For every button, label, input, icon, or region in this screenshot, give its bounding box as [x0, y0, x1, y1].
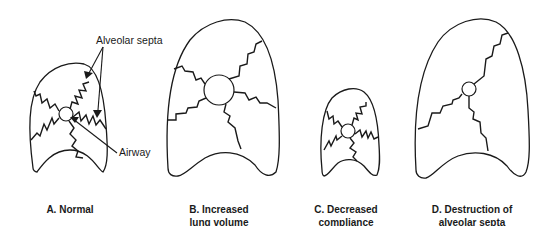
caption-b-line2: lung volume: [182, 216, 256, 226]
septum-c-upper-right: [352, 102, 366, 125]
septum-b-right: [234, 92, 276, 108]
septum-d-upper-right: [474, 33, 508, 84]
septum-c-upper-left: [327, 111, 342, 127]
septum-d-lower: [469, 96, 488, 151]
septum-b-lower: [224, 104, 241, 149]
septum-a-left-upper: [34, 91, 59, 111]
caption-a-line1: A. Normal: [40, 203, 100, 216]
caption-c-line1: C. Decreased: [307, 203, 385, 216]
caption-d: D. Destruction of alveolar septa: [422, 203, 522, 226]
airway-d: [462, 82, 476, 96]
lung-outline-d: [415, 19, 529, 178]
septum-a-upper: [70, 82, 89, 109]
caption-c: C. Decreased compliance: [307, 203, 385, 226]
septum-b-upper-left: [174, 66, 205, 84]
septum-a-left-lower: [31, 118, 59, 140]
panel-b-increased-volume: [167, 20, 279, 176]
alveolar-septa-label: Alveolar septa: [96, 34, 163, 46]
caption-d-line1: D. Destruction of: [422, 203, 522, 216]
panel-d-destruction: [415, 19, 529, 178]
septa-arrowhead-1: [84, 71, 93, 79]
panel-c-decreased-compliance: [321, 89, 380, 176]
septum-b-lower-left: [167, 98, 206, 120]
septum-c-lower-left: [324, 136, 342, 150]
lung-diagram: [0, 0, 538, 226]
panel-a-normal: [30, 47, 117, 172]
septa-pointer-2: [98, 47, 103, 110]
septum-d-left: [418, 94, 462, 129]
septum-a-right: [73, 112, 106, 129]
airway-a: [59, 107, 73, 121]
caption-b-line1: B. Increased: [182, 203, 256, 216]
septum-c-lower: [350, 138, 357, 161]
caption-d-line2: alveolar septa: [422, 216, 522, 226]
septum-c-right: [355, 130, 378, 139]
airway-c: [341, 124, 355, 138]
airway-label: Airway: [119, 146, 151, 158]
septum-b-upper-right: [229, 41, 262, 79]
caption-a: A. Normal: [40, 203, 100, 216]
caption-c-line2: compliance: [307, 216, 385, 226]
septa-arrowhead-2: [93, 110, 102, 118]
caption-b: B. Increased lung volume: [182, 203, 256, 226]
